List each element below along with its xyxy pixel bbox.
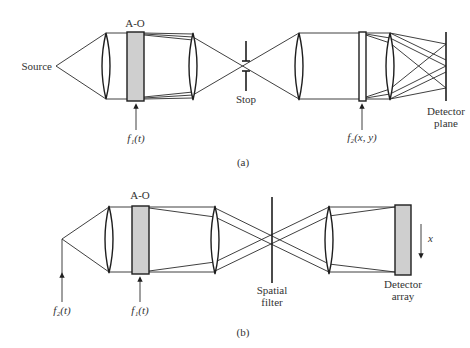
caption-b: (b) [237, 326, 250, 339]
acousto-optic-label: A-O [125, 17, 145, 29]
f1-label: f₁(t) [131, 304, 149, 317]
source-rays [56, 33, 106, 99]
scan-axis-label: x [427, 232, 433, 244]
detector-plane-label-2: plane [434, 117, 458, 129]
detector-array-label-1: Detector [384, 278, 422, 290]
diagram-a: Source A-O Stop f₁(t) f₂(x, y) Detector … [21, 17, 465, 169]
acousto-optic-cell [132, 206, 149, 274]
diagram-b: A-O f₂(t) f₁(t) Spatial filter Detector … [53, 189, 433, 339]
rays-to-detector-plane [390, 33, 446, 99]
caption-a: (a) [237, 156, 250, 169]
optical-processor-diagrams: Source A-O Stop f₁(t) f₂(x, y) Detector … [0, 0, 470, 348]
spatial-filter-label-2: filter [261, 296, 283, 308]
diffracted-rays-b [149, 207, 215, 272]
acousto-optic-cell [127, 32, 144, 101]
detector-plane-label-1: Detector [427, 105, 465, 117]
detector-array-label-2: array [392, 290, 415, 302]
f1-label: f₁(t) [127, 132, 145, 145]
stop-label: Stop [236, 93, 257, 105]
f2-label: f₂(t) [53, 304, 71, 317]
diffracted-rays-a [144, 33, 193, 99]
lens-1 [105, 206, 113, 273]
f2-label: f₂(x, y) [347, 131, 377, 144]
source-label: Source [21, 60, 52, 72]
spatial-filter-label-1: Spatial [257, 284, 288, 296]
lens-2 [189, 33, 197, 100]
mask-transparency [359, 32, 366, 101]
ray [62, 239, 109, 272]
lens-3 [295, 33, 303, 100]
ray [62, 207, 109, 239]
acousto-optic-label: A-O [130, 189, 150, 201]
detector-array [395, 205, 411, 275]
rays-to-detector-array [329, 207, 395, 272]
lens-1 [102, 33, 110, 99]
lens-3 [325, 206, 333, 274]
